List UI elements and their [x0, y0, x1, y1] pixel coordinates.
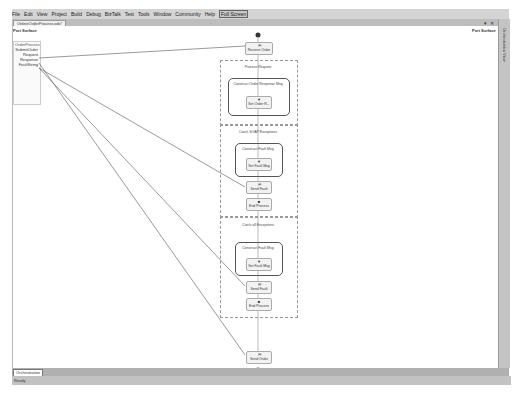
status-bar: Ready [12, 376, 511, 385]
send-fault-1-shape[interactable]: ✉ Send Fault [246, 181, 272, 194]
construct-response-caption: Construct Order Response Msg [228, 82, 288, 86]
send-order-shape[interactable]: ✉ Send Order [246, 351, 272, 364]
construct-fault-1-caption: Construct Fault Msg [235, 147, 281, 151]
scope-caption: Process Request [220, 65, 296, 69]
start-shape [256, 33, 261, 38]
set-order-shape[interactable]: ▼ Set Order R... [246, 96, 272, 109]
construct-fault-2-caption: Construct Fault Msg [235, 246, 281, 250]
catch-all-caption: Catch all Exceptions [220, 223, 296, 227]
catch-soap-caption: Catch SOAP Exceptions [220, 130, 296, 134]
set-fault-2-shape[interactable]: ▼ Set Fault Msg [246, 258, 272, 271]
end-process-1-shape[interactable]: ■ End Process [246, 198, 272, 211]
bottom-tab-strip [12, 368, 509, 376]
receive-order-shape[interactable]: ✉ Receive Order [245, 42, 273, 55]
end-process-2-shape[interactable]: ■ End Process [246, 298, 272, 311]
set-fault-1-shape[interactable]: ▼ Set Fault Msg [246, 158, 272, 171]
send-fault-2-shape[interactable]: ✉ Send Fault [246, 281, 272, 294]
